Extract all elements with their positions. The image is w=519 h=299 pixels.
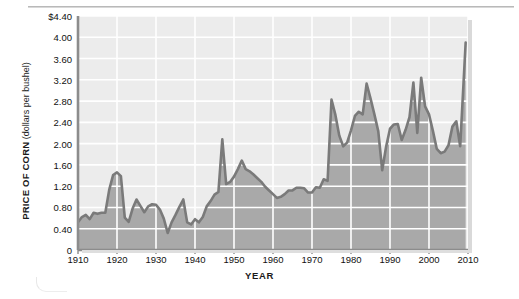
x-axis-tick-label: 1920 <box>95 254 139 265</box>
x-axis-tick-labels: 1910192019301940195019601970198019902000… <box>0 254 519 268</box>
x-axis-tick-label: 2000 <box>407 254 451 265</box>
x-axis-tick-label: 1910 <box>56 254 100 265</box>
x-axis-tick-label: 1990 <box>368 254 412 265</box>
x-axis-tick-label: 1960 <box>251 254 295 265</box>
x-axis-tick-label: 1930 <box>134 254 178 265</box>
page-corner-artifact <box>36 277 67 292</box>
plot-shadow-right <box>468 20 472 252</box>
x-axis-tick-label: 1950 <box>212 254 256 265</box>
x-axis-tick-label: 2010 <box>446 254 490 265</box>
x-axis-tick-label: 1980 <box>329 254 373 265</box>
x-axis-tick-label: 1940 <box>173 254 217 265</box>
plot-shadow-bottom <box>82 250 472 253</box>
x-axis-title: YEAR <box>0 270 519 281</box>
x-axis-tick-label: 1970 <box>290 254 334 265</box>
chart-figure: PRICE OF CORN (dollars per bushel) 00.40… <box>0 0 519 299</box>
